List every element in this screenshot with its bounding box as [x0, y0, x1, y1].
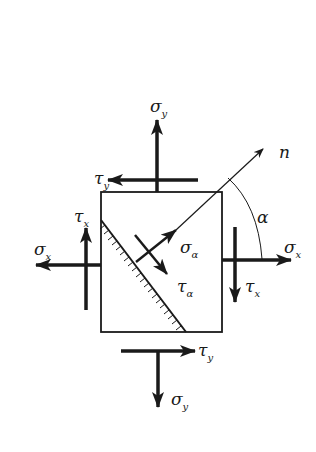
normal-n-arrow [176, 149, 263, 230]
sigma-alpha-arrow [136, 230, 176, 262]
element-square [101, 192, 222, 332]
label-sigma-x-right: σx [284, 237, 302, 260]
label-sigma-x-left: σx [34, 239, 52, 262]
label-normal-n: n [279, 142, 290, 162]
stress-element-diagram: σy τy τx σx σx τx σα τα τy σy n α [0, 0, 316, 452]
label-angle-alpha: α [257, 207, 269, 227]
label-tau-y-bottom: τy [198, 340, 213, 363]
label-sigma-alpha: σα [180, 237, 199, 260]
label-sigma-y-top: σy [150, 96, 168, 119]
label-sigma-y-bottom: σy [171, 389, 189, 412]
label-tau-x-right: τx [245, 276, 260, 299]
label-tau-x-left: τx [74, 206, 89, 229]
inclined-section [100, 220, 186, 332]
label-tau-y-top: τy [94, 168, 109, 191]
label-tau-alpha: τα [177, 276, 193, 299]
